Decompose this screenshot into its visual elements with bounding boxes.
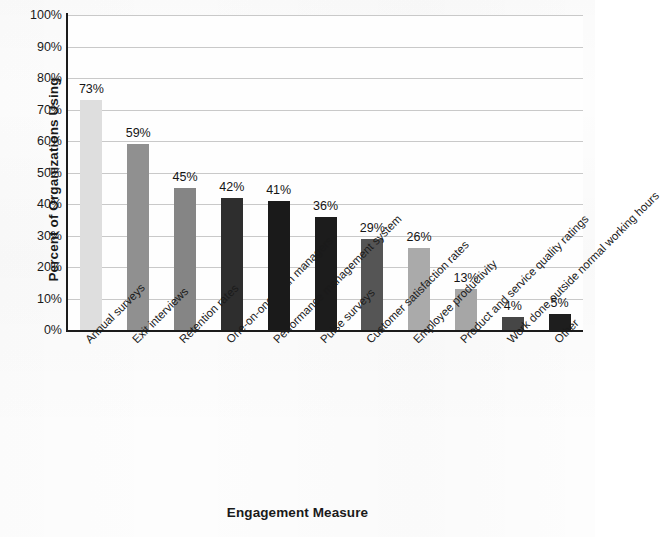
bar-value-label: 36% <box>303 200 349 213</box>
bar-value-label: 26% <box>396 231 442 244</box>
gridline <box>68 78 583 79</box>
gridline <box>68 47 583 48</box>
y-tick-label: 70% <box>6 104 62 116</box>
y-tick-label: 30% <box>6 230 62 242</box>
bar <box>268 201 290 330</box>
y-tick-label: 0% <box>6 324 62 336</box>
bar-value-label: 45% <box>162 171 208 184</box>
y-tick-label: 10% <box>6 293 62 305</box>
bar-value-label: 59% <box>115 127 161 140</box>
bar <box>80 100 102 330</box>
y-tick-label: 90% <box>6 41 62 53</box>
bar-value-label: 73% <box>68 83 114 96</box>
bar-value-label: 42% <box>209 181 255 194</box>
y-tick-label: 50% <box>6 167 62 179</box>
y-tick-label: 100% <box>6 9 62 21</box>
y-tick-label: 60% <box>6 135 62 147</box>
y-axis-line <box>66 13 68 332</box>
gridline <box>68 141 583 142</box>
bar <box>221 198 243 330</box>
bar <box>174 188 196 330</box>
y-tick-label: 20% <box>6 261 62 273</box>
y-tick-label: 80% <box>6 72 62 84</box>
y-axis-tick-labels: 100%90%80%70%60%50%40%30%20%10%0% <box>0 15 62 330</box>
x-axis-title: Engagement Measure <box>0 505 595 520</box>
gridline <box>68 15 583 16</box>
gridline <box>68 110 583 111</box>
y-tick-label: 40% <box>6 198 62 210</box>
bar-value-label: 41% <box>256 184 302 197</box>
